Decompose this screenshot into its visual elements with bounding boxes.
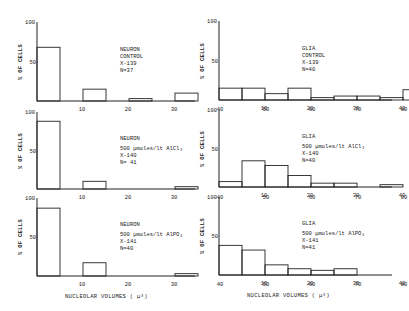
histogram-bar	[37, 208, 60, 276]
panel-annotation: GLIA500 µmoles/lt AlPO₄X-141N=41	[302, 220, 365, 251]
annotation-condition: 500 µmoles/lt AlPO₄	[302, 230, 365, 237]
y-tick-50: 50	[211, 146, 218, 153]
x-tick-label: 10	[261, 280, 268, 287]
annotation-condition: CONTROL	[120, 53, 143, 60]
panel-annotation: GLIA500 µmoles/lt AlCl₃X-140N=40	[302, 133, 365, 164]
histogram-bar	[219, 88, 242, 100]
panel-annotation: NEURON500 µmoles/lt AlPO₄X-141N=40	[120, 221, 183, 252]
panel-annotation: NEURON500 µmoles/lt AlCl₃X-140N= 41	[120, 135, 183, 166]
annotation-cell-type: NEURON	[120, 135, 183, 142]
annotation-cell-type: GLIA	[302, 45, 325, 52]
annotation-cell-type: GLIA	[302, 133, 365, 140]
histogram-bar	[37, 121, 60, 189]
annotation-n: N=40	[302, 66, 325, 73]
panel-neuron-alcl3: 10050102030405060708090100% OF CELLSNEUR…	[0, 100, 205, 200]
y-tick-50: 50	[29, 59, 36, 66]
histogram-plot: 10050102030405060708090100	[0, 0, 205, 105]
histogram-bar	[83, 263, 106, 276]
annotation-mean: X-141	[302, 237, 365, 244]
histogram-bar	[334, 269, 357, 275]
annotation-cell-type: GLIA	[302, 220, 365, 227]
annotation-cell-type: NEURON	[120, 46, 143, 53]
x-tick-label: 10	[79, 281, 86, 288]
annotation-condition: CONTROL	[302, 52, 325, 59]
annotation-n: N=37	[120, 67, 143, 74]
y-axis-label: % OF CELLS	[199, 130, 206, 166]
y-axis-label: % OF CELLS	[17, 43, 24, 79]
histogram-bar	[311, 270, 334, 275]
panel-glia-alcl3: 10050102030405060708090100% OF CELLSGLIA…	[200, 100, 409, 200]
histogram-bar	[242, 161, 265, 187]
y-tick-50: 50	[211, 58, 218, 65]
histogram-bar	[37, 47, 60, 101]
panel-annotation: NEURONCONTROLX-139N=37	[120, 46, 143, 74]
annotation-n: N=41	[302, 244, 365, 251]
annotation-n: N=40	[120, 245, 183, 252]
y-tick-100: 100	[207, 107, 217, 114]
annotation-n: N=40	[302, 157, 365, 164]
panel-neuron-alpo4: 10050102030405060708090100% OF CELLSNEUR…	[0, 195, 205, 311]
histogram-bar	[83, 181, 106, 189]
histogram-bar	[403, 90, 409, 100]
x-tick-label: 20	[125, 281, 132, 288]
x-axis-title: NUCLEOLAR VOLUMES ( µ³)	[247, 292, 330, 299]
x-tick-label: 30	[171, 281, 178, 288]
x-tick-label: 20	[307, 280, 314, 287]
panel-glia-control: 10050102030405060708090100% OF CELLSGLIA…	[200, 0, 409, 105]
panel-neuron-control: 10050102030405060708090100% OF CELLSNEUR…	[0, 0, 205, 105]
x-axis-title: NUCLEOLAR VOLUMES ( µ³)	[65, 293, 148, 300]
histogram-bar	[219, 245, 242, 275]
histogram-bar	[219, 182, 242, 187]
annotation-condition: 500 µmoles/lt AlPO₄	[120, 231, 183, 238]
annotation-condition: 500 µmoles/lt AlCl₃	[302, 143, 365, 150]
panel-glia-alpo4: 10050102030405060708090100% OF CELLSGLIA…	[200, 195, 409, 311]
histogram-bar	[288, 175, 311, 187]
y-tick-100: 100	[207, 18, 217, 25]
histogram-bar	[265, 265, 288, 275]
histogram-bar	[311, 183, 334, 187]
y-axis-label: % OF CELLS	[17, 219, 24, 255]
annotation-condition: 500 µmoles/lt AlCl₃	[120, 145, 183, 152]
annotation-mean: X-140	[120, 152, 183, 159]
y-tick-50: 50	[29, 148, 36, 155]
histogram-bar	[288, 88, 311, 100]
histogram-bar	[242, 88, 265, 100]
y-axis-label: % OF CELLS	[199, 218, 206, 254]
y-tick-100: 100	[207, 194, 217, 201]
annotation-mean: X-140	[302, 150, 365, 157]
annotation-mean: X-139	[302, 59, 325, 66]
panel-annotation: GLIACONTROLX-139N=40	[302, 45, 325, 73]
x-tick-label: 30	[353, 280, 360, 287]
annotation-cell-type: NEURON	[120, 221, 183, 228]
y-tick-100: 100	[25, 195, 35, 202]
annotation-mean: X-139	[120, 60, 143, 67]
x-tick-label: 40	[399, 280, 406, 287]
histogram-bar	[242, 250, 265, 275]
y-tick-50: 50	[211, 233, 218, 240]
histogram-bar	[334, 183, 357, 187]
y-axis-label: % OF CELLS	[199, 42, 206, 78]
y-tick-100: 100	[25, 109, 35, 116]
annotation-n: N= 41	[120, 159, 183, 166]
histogram-bar	[265, 165, 288, 187]
y-tick-100: 100	[25, 19, 35, 26]
histogram-bar	[288, 269, 311, 275]
annotation-mean: X-141	[120, 238, 183, 245]
y-tick-50: 50	[29, 234, 36, 241]
y-axis-label: % OF CELLS	[17, 132, 24, 168]
